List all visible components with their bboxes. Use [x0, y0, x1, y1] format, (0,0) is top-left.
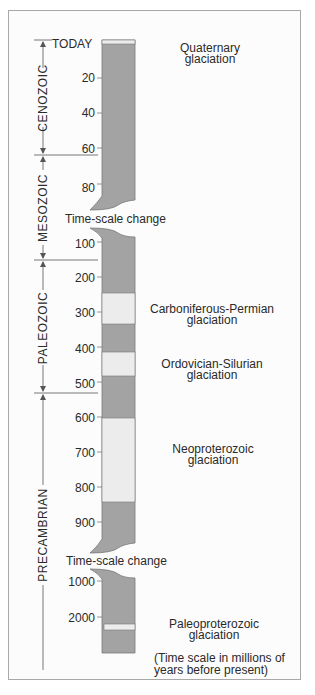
time-scale-change-label-2: Time-scale change — [66, 554, 167, 568]
tick-label-800: 800 — [75, 481, 95, 495]
era-label-precambrian: PRECAMBRIAN — [36, 488, 50, 582]
paleoproterozoic-label-line2: glaciation — [189, 628, 240, 642]
tick-label-1000: 1000 — [68, 575, 95, 589]
today-label: TODAY — [52, 37, 92, 51]
tick-labels: 20 40 60 80 100 200 300 400 500 600 700 … — [68, 71, 95, 625]
era-label-mesozoic: MESOZOIC — [36, 174, 50, 242]
tick-label-60: 60 — [82, 142, 96, 156]
neoproterozoic-glacial-band — [102, 418, 135, 502]
column-segment-upper — [90, 40, 135, 210]
tick-label-900: 900 — [75, 516, 95, 530]
ordovician-label-line2: glaciation — [187, 368, 238, 382]
tick-label-100: 100 — [75, 237, 95, 251]
era-label-paleozoic: PALEOZOIC — [36, 292, 50, 364]
column-segment-middle — [90, 228, 135, 553]
glaciation-annotations: Quaternary glaciation Carboniferous-Perm… — [150, 41, 274, 642]
tick-label-2000: 2000 — [68, 611, 95, 625]
carboniferous-label-line2: glaciation — [187, 313, 238, 327]
tick-label-500: 500 — [75, 377, 95, 391]
tick-marks — [97, 78, 102, 617]
column-segment-lower — [90, 569, 135, 653]
time-scale-change-label-1: Time-scale change — [65, 212, 166, 226]
tick-label-400: 400 — [75, 342, 95, 356]
tick-label-300: 300 — [75, 306, 95, 320]
tick-label-20: 20 — [82, 71, 96, 85]
tick-label-700: 700 — [75, 446, 95, 460]
time-scale-note: (Time scale in millions of years before … — [154, 651, 286, 677]
note-line2: years before present) — [154, 663, 268, 677]
tick-label-80: 80 — [82, 181, 96, 195]
quaternary-label-line2: glaciation — [185, 52, 236, 66]
tick-label-600: 600 — [75, 411, 95, 425]
tick-label-200: 200 — [75, 271, 95, 285]
paleoproterozoic-glacial-band — [104, 624, 135, 630]
tick-label-40: 40 — [82, 106, 96, 120]
era-label-cenozoic: CENOZOIC — [36, 64, 50, 131]
quaternary-glacial-band — [102, 40, 135, 44]
carboniferous-permian-glacial-band — [102, 293, 135, 324]
ordovician-silurian-glacial-band — [102, 352, 135, 376]
glaciation-timeline: 20 40 60 80 100 200 300 400 500 600 700 … — [0, 0, 315, 695]
neoproterozoic-label-line2: glaciation — [188, 453, 239, 467]
